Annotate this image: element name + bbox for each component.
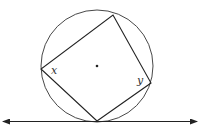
angle-label-x: x bbox=[51, 64, 58, 77]
geometry-diagram: x y bbox=[0, 0, 204, 136]
angle-label-y: y bbox=[136, 74, 144, 87]
center-point bbox=[96, 65, 99, 68]
